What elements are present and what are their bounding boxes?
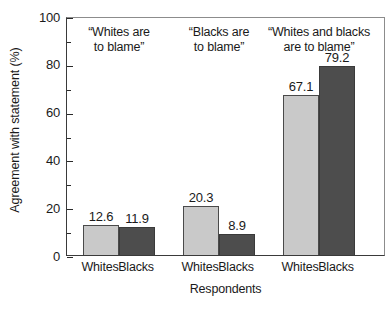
y-axis-major-tick [67, 257, 73, 258]
y-axis-minor-tick [67, 185, 71, 186]
group-annotation: “Whites and blacks are to blame” [259, 25, 379, 55]
y-axis-minor-tick [67, 138, 71, 139]
bar-value-label: 11.9 [112, 212, 162, 225]
y-axis-minor-tick [67, 233, 71, 234]
x-axis-category-label: Blacks [109, 260, 163, 274]
x-axis-category-label: Blacks [309, 260, 363, 274]
bar [319, 66, 355, 255]
bar [219, 234, 255, 255]
y-axis-major-tick [67, 18, 73, 19]
bar-chart: Agreement with statement (%) 02040608010… [0, 0, 391, 310]
y-axis-major-tick [67, 114, 73, 115]
x-axis-category-label: Blacks [209, 260, 263, 274]
y-axis-tick-label: 60 [20, 106, 60, 119]
bar-value-label: 20.3 [176, 191, 226, 204]
bar [119, 227, 155, 255]
y-axis-title: Agreement with statement (%) [4, 2, 26, 258]
y-axis-tick-label: 40 [20, 154, 60, 167]
y-axis-tick-label: 80 [20, 58, 60, 71]
bar [283, 95, 319, 255]
x-axis-title: Respondents [66, 282, 385, 296]
y-axis-major-tick [67, 161, 73, 162]
y-axis-major-tick [67, 209, 73, 210]
bar [83, 225, 119, 255]
y-axis-tick-label: 0 [20, 250, 60, 263]
y-axis-tick-label: 20 [20, 202, 60, 215]
y-axis-major-tick [67, 66, 73, 67]
y-axis-minor-tick [67, 90, 71, 91]
bar-value-label: 8.9 [212, 219, 262, 232]
plot-area: 12.611.920.38.967.179.2 “Whites are to b… [66, 17, 385, 256]
y-axis-tick-label: 100 [20, 11, 60, 24]
